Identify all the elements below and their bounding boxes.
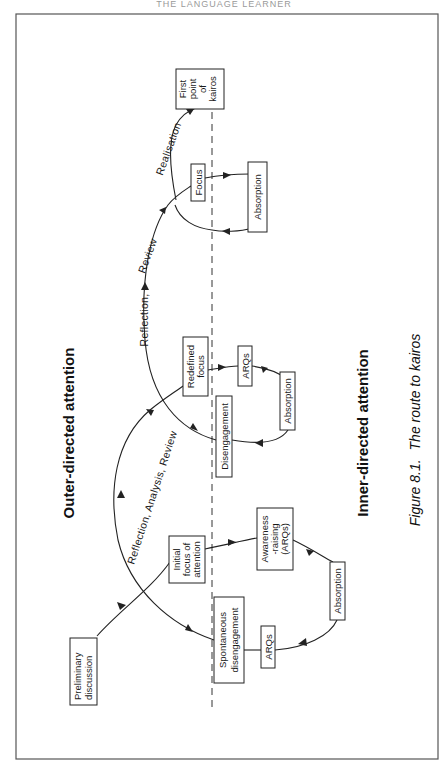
arrow-icon [223, 172, 231, 179]
node-first-point-of-kairos: First point of kairos [176, 69, 224, 109]
node-label: (ARQs) [279, 523, 290, 555]
arrow-icon [185, 624, 193, 632]
arrow-icon [222, 228, 230, 235]
node-label: Disengagement [219, 403, 230, 470]
node-label: ARQs [263, 634, 274, 660]
node-arqs-1: ARQs [261, 626, 275, 668]
node-initial-focus: Initial focus of attention [169, 536, 205, 583]
connector-preliminary-to-initial [97, 562, 170, 636]
arrow-icon [190, 423, 198, 431]
node-label: Absorption [252, 174, 263, 219]
caption-text: Figure 8.1. The route to kairos [407, 334, 423, 527]
node-spontaneous-disengagement: Spontaneous disengagement [214, 597, 244, 683]
node-arqs-2: ARQs [238, 346, 252, 386]
node-label: Spontaneous [217, 612, 228, 668]
arrow-icon [255, 439, 263, 447]
arrow-icon [218, 364, 226, 371]
arrow-icon [117, 490, 125, 498]
node-label: kairos [207, 76, 218, 102]
node-label: Absorption [332, 568, 343, 613]
region-label-outer-directed: Outer-directed attention [60, 348, 77, 519]
node-absorption-2: Absorption [280, 372, 295, 430]
node-label: Focus [193, 169, 204, 195]
node-preliminary-discussion: Preliminary discussion [70, 638, 97, 705]
arrow-icon [298, 638, 307, 646]
node-awareness-raising: Awareness -raising (ARQs) [257, 508, 293, 570]
node-label: Preliminary [72, 652, 83, 700]
arc-reflection-analysis-review [114, 386, 214, 640]
node-disengagement: Disengagement [216, 396, 232, 477]
path-label-reflection: Reflection, [138, 294, 150, 347]
route-to-kairos-diagram: Preliminary discussion Initial focus of … [0, 0, 448, 773]
node-label: focus [195, 355, 206, 378]
arrow-icon [228, 539, 236, 546]
node-label: disengagement [229, 607, 240, 672]
node-label: attention [191, 541, 202, 577]
node-label: discussion [83, 656, 94, 700]
node-focus: Focus [191, 164, 205, 201]
node-label: ARQs [240, 353, 251, 379]
path-label-review: Review [135, 236, 159, 274]
caption-figure-number: Figure 8.1. [407, 459, 423, 526]
arc-reflection-review [144, 186, 216, 440]
node-label: Absorption [282, 378, 293, 423]
connector-absorption-return [175, 205, 252, 231]
node-redefined-focus: Redefined focus [183, 337, 208, 396]
path-label-realisation: Realisation [153, 121, 183, 177]
region-label-inner-directed: Inner-directed attention [354, 349, 371, 517]
figure-caption: Figure 8.1. The route to kairos [407, 334, 423, 527]
caption-title: The route to kairos [407, 334, 423, 451]
arrow-icon [141, 282, 149, 290]
connector-absorption-to-disengagement [232, 430, 288, 442]
node-absorption-1: Absorption [330, 562, 345, 620]
node-absorption-3: Absorption [248, 162, 267, 232]
